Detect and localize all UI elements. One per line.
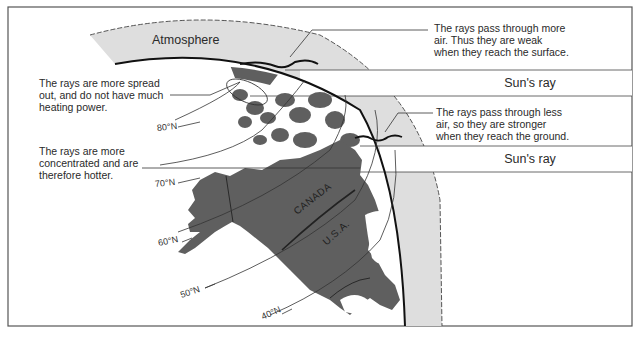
diagram-canvas: Atmosphere The rays pass through more ai… — [0, 0, 642, 337]
annotation-concentrated: The rays are more concentrated and are t… — [39, 145, 138, 181]
sun-ray-label-1: Sun's ray — [470, 77, 590, 89]
annotation-spread-out: The rays are more spread out, and do not… — [39, 77, 163, 113]
atmosphere-label: Atmosphere — [152, 34, 219, 46]
latitude-70n-label: 70°N — [155, 177, 176, 189]
annotation-more-air: The rays pass through more air. Thus the… — [434, 22, 569, 58]
annotation-less-air: The rays pass through less air, so they … — [436, 106, 569, 142]
latitude-80n-label: 80°N — [157, 121, 178, 133]
sun-ray-label-2: Sun's ray — [470, 153, 590, 165]
